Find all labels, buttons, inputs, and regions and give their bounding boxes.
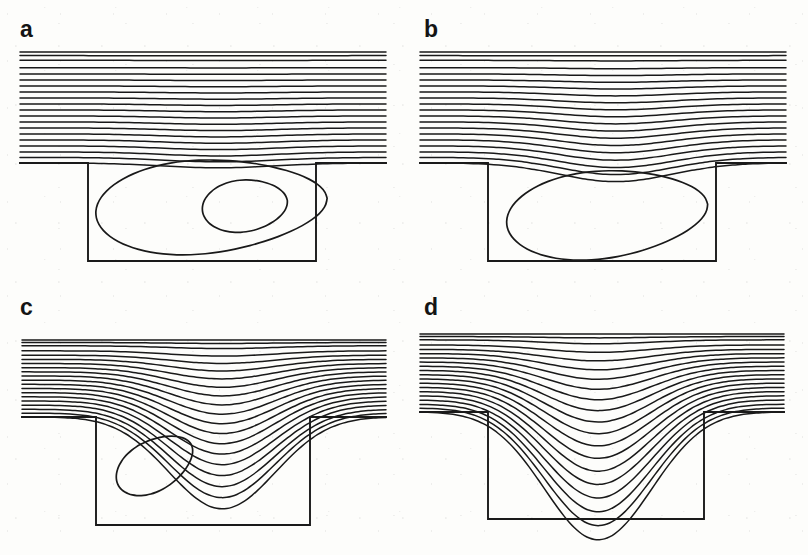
streamline [20,134,386,137]
cavity-flow-figure: a b c d [0,0,808,555]
streamlines-d [420,334,784,540]
streamline [20,104,386,106]
vortex-contour [202,180,287,232]
cavity-wall-d [420,412,784,519]
panel-label-c: c [20,296,33,319]
streamline [420,128,786,138]
streamline [420,98,786,103]
streamline [20,110,386,112]
streamline [420,68,786,69]
streamline [20,128,386,131]
streamline [420,60,786,61]
streamline [420,337,784,338]
panel-b: b [404,0,808,277]
streamline [420,340,784,344]
vortex-contour [96,160,327,255]
streamline [20,140,386,143]
streamline [22,346,386,349]
streamline [420,412,784,540]
streamline [420,86,786,89]
streamline [20,80,386,81]
cavity-vortex-a [96,160,327,255]
streamline [20,152,386,156]
streamline [22,397,386,454]
streamlines-c [22,340,386,509]
cavity-wall-b [420,163,786,261]
streamline-plot-c [0,278,404,555]
streamline-plot-b [404,0,808,277]
panel-label-d: d [424,296,438,319]
streamline [420,80,786,82]
streamline [420,408,784,525]
panel-a: a [0,0,404,277]
panel-label-a: a [20,18,33,41]
streamline [420,163,786,182]
streamline [420,387,784,458]
streamline [20,98,386,99]
streamline-plot-a [0,0,404,277]
streamline [420,104,786,110]
streamline [420,74,786,76]
panel-label-b: b [424,18,438,41]
streamline [20,116,386,118]
streamline [22,413,386,497]
streamline-plot-d [404,278,808,555]
streamline [20,146,386,150]
streamline [22,343,386,344]
panel-c: c [0,278,404,555]
streamline [420,383,784,446]
vortex-contour [507,171,708,260]
streamline [20,86,386,87]
streamline [20,92,386,93]
streamline [20,122,386,124]
streamline [420,345,784,352]
streamline [420,92,786,96]
cavity-vortex-b [507,171,708,260]
streamlines-a [20,52,386,168]
panel-d: d [404,278,808,555]
